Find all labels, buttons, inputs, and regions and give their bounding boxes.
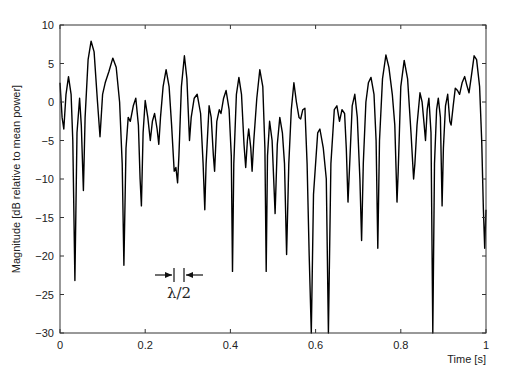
y-tick-label: −30 (35, 327, 54, 339)
fading-chart: 00.20.40.60.81 1050−5−10−15−20−25−30 Tim… (0, 0, 510, 379)
x-tick-label: 1 (483, 339, 489, 351)
y-axis-label: Magnitude [dB relative to mean power] (10, 85, 22, 273)
x-tick-label: 0.6 (308, 339, 323, 351)
x-tick-label: 0.4 (223, 339, 238, 351)
y-tick-label: −20 (35, 250, 54, 262)
x-tick-label: 0.2 (138, 339, 153, 351)
y-tick-label: 5 (48, 58, 54, 70)
y-tick-label: −10 (35, 173, 54, 185)
x-tick-label: 0.8 (393, 339, 408, 351)
y-tick-label: 0 (48, 96, 54, 108)
y-tick-label: −5 (41, 135, 54, 147)
lambda-half-label: λ/2 (167, 284, 191, 302)
y-tick-label: −25 (35, 289, 54, 301)
y-tick-label: −15 (35, 212, 54, 224)
x-tick-label: 0 (57, 339, 63, 351)
x-axis-label: Time [s] (447, 353, 486, 365)
y-tick-label: 10 (42, 19, 54, 31)
